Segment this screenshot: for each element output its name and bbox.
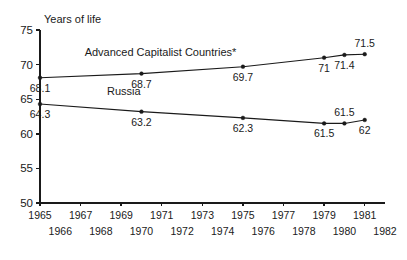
data-point <box>363 118 367 122</box>
x-tick-label-odd: 1967 <box>69 209 93 221</box>
x-tick-label-even: 1980 <box>333 225 357 237</box>
x-tick-label-odd: 1977 <box>272 209 296 221</box>
x-tick-label-even: 1974 <box>211 225 235 237</box>
line-chart: 757065605550 196519671969197119731975197… <box>0 0 407 260</box>
data-point <box>322 122 326 126</box>
data-point-label: 71.5 <box>354 37 375 49</box>
data-point <box>241 65 245 69</box>
data-point <box>140 72 144 76</box>
data-point <box>363 52 367 56</box>
y-tick-label: 60 <box>20 128 33 140</box>
data-point <box>38 76 42 80</box>
x-tick-label-odd: 1971 <box>150 209 174 221</box>
x-tick-label-odd: 1965 <box>28 209 52 221</box>
x-tick-label-even: 1978 <box>292 225 316 237</box>
data-point-label: 62 <box>359 124 371 136</box>
x-tick-label-odd: 1973 <box>191 209 215 221</box>
data-point-label: 61.5 <box>334 106 355 118</box>
data-point <box>140 110 144 114</box>
y-tick-label: 75 <box>20 24 33 36</box>
series-label-russia: Russia <box>107 85 142 97</box>
data-point-label: 61.5 <box>314 127 335 139</box>
y-tick-label: 50 <box>20 197 33 209</box>
chart-container: 757065605550 196519671969197119731975197… <box>0 0 407 260</box>
data-point-label: 71.4 <box>334 59 355 71</box>
data-point-label: 71 <box>318 62 330 74</box>
x-tick-label-odd: 1981 <box>353 209 377 221</box>
y-tick-label: 70 <box>20 59 33 71</box>
x-tick-label-even: 1976 <box>252 225 276 237</box>
x-tick-label-odd: 1979 <box>312 209 336 221</box>
data-point <box>343 122 347 126</box>
data-point-label: 64.3 <box>30 108 51 120</box>
data-point <box>322 56 326 60</box>
data-point <box>241 116 245 120</box>
data-point-label: 62.3 <box>233 122 254 134</box>
x-tick-label-odd: 1969 <box>109 209 133 221</box>
x-tick-label-even: 1968 <box>89 225 113 237</box>
data-point <box>38 102 42 106</box>
y-axis-title: Years of life <box>44 13 101 25</box>
x-tick-label-odd: 1975 <box>231 209 255 221</box>
x-tick-label-even: 1966 <box>49 225 73 237</box>
y-tick-label: 65 <box>20 93 33 105</box>
data-point-label: 68.1 <box>30 82 51 94</box>
chart-background <box>0 0 407 260</box>
data-point <box>343 53 347 57</box>
x-tick-label-even: 1982 <box>373 225 397 237</box>
x-tick-label-even: 1972 <box>170 225 194 237</box>
y-tick-label: 55 <box>20 162 33 174</box>
data-point-label: 69.7 <box>233 71 254 83</box>
x-tick-label-even: 1970 <box>130 225 154 237</box>
series-label-acc: Advanced Capitalist Countries* <box>85 46 237 58</box>
data-point-label: 63.2 <box>131 116 152 128</box>
